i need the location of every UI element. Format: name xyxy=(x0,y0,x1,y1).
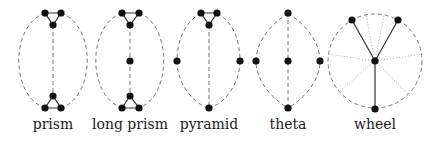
label-wheel: wheel xyxy=(330,116,420,132)
pyramid-graph xyxy=(173,9,243,111)
vertices xyxy=(118,9,142,111)
label-long-prism: long prism xyxy=(85,116,175,132)
label-pyramid: pyramid xyxy=(164,116,254,132)
dashed-path xyxy=(19,13,45,108)
dashed-path xyxy=(288,13,320,108)
label-theta: theta xyxy=(243,116,333,132)
wheel-graph xyxy=(328,14,422,113)
dashed-path xyxy=(61,13,87,108)
theta-graph xyxy=(252,9,323,111)
dashed-path xyxy=(177,13,209,108)
dashed-path xyxy=(256,13,288,108)
dashed-path xyxy=(96,13,122,108)
prism-graph xyxy=(19,9,88,111)
dashed-path xyxy=(209,13,240,108)
long-prism-graph xyxy=(96,9,164,111)
vertices xyxy=(252,9,323,111)
dashed-path xyxy=(139,13,164,108)
